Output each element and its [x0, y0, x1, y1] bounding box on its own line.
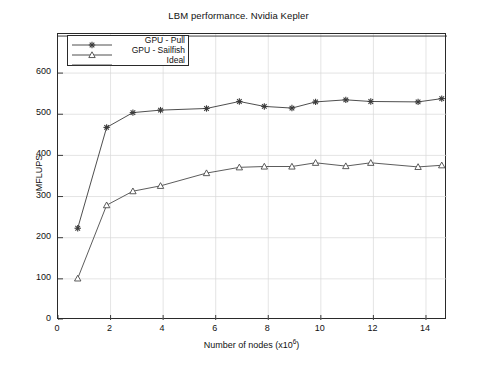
chart-figure: LBM performance. Nvidia Kepler MFLUPS Nu… [0, 0, 477, 368]
x-tick-label: 0 [42, 323, 72, 333]
legend-marker-line [71, 56, 113, 66]
x-axis-label-tail: ) [296, 340, 299, 350]
data-point-marker [289, 105, 295, 111]
x-tick-label: 8 [252, 323, 282, 333]
x-tick-label: 12 [357, 323, 387, 333]
data-point-marker [103, 124, 109, 130]
data-point-marker [130, 109, 136, 115]
series-line [78, 99, 442, 229]
legend-marker-star [71, 36, 113, 46]
data-point-marker [203, 105, 209, 111]
triangle-marker [103, 202, 109, 208]
legend-marker-triangle [71, 46, 113, 56]
data-point-marker [439, 95, 445, 101]
data-point-marker [343, 97, 349, 103]
x-axis-label: Number of nodes (x106) [57, 338, 446, 350]
y-tick-label: 0 [11, 313, 51, 323]
x-tick-label: 4 [147, 323, 177, 333]
legend-sample-graphic [71, 60, 113, 70]
y-tick-label: 600 [11, 66, 51, 76]
triangle-marker [368, 160, 374, 166]
plot-area [57, 33, 446, 319]
y-tick-label: 100 [11, 272, 51, 282]
triangle-marker [312, 160, 318, 166]
y-axis-label: MFLUPS [34, 128, 44, 218]
data-point-marker [415, 99, 421, 105]
data-point-marker [261, 103, 267, 109]
legend-item-2: Ideal [68, 56, 188, 66]
chart-title: LBM performance. Nvidia Kepler [0, 10, 477, 21]
x-tick-label: 2 [95, 323, 125, 333]
data-point-marker [236, 98, 242, 104]
triangle-marker [75, 275, 81, 281]
x-tick-label: 14 [410, 323, 440, 333]
data-point-marker [157, 107, 163, 113]
data-point-marker [75, 225, 81, 231]
triangle-marker [439, 162, 445, 168]
y-tick-label: 400 [11, 148, 51, 158]
legend-label: GPU - Sailfish [132, 45, 185, 55]
series-gpu-pull [75, 95, 445, 231]
data-point-marker [368, 98, 374, 104]
x-tick-label: 10 [305, 323, 335, 333]
chart-legend: GPU - PullGPU - SailfishIdeal [67, 35, 189, 66]
plot-canvas [58, 34, 447, 320]
y-tick-label: 200 [11, 231, 51, 241]
y-tick-label: 300 [11, 190, 51, 200]
series-gpu-sailfish [75, 160, 445, 281]
data-point-marker [312, 99, 318, 105]
legend-label: GPU - Pull [145, 35, 185, 45]
legend-label: Ideal [167, 55, 185, 65]
x-tick-label: 6 [200, 323, 230, 333]
y-tick-label: 500 [11, 107, 51, 117]
x-axis-label-base: Number of nodes (x10 [204, 340, 293, 350]
series-line [78, 163, 442, 279]
